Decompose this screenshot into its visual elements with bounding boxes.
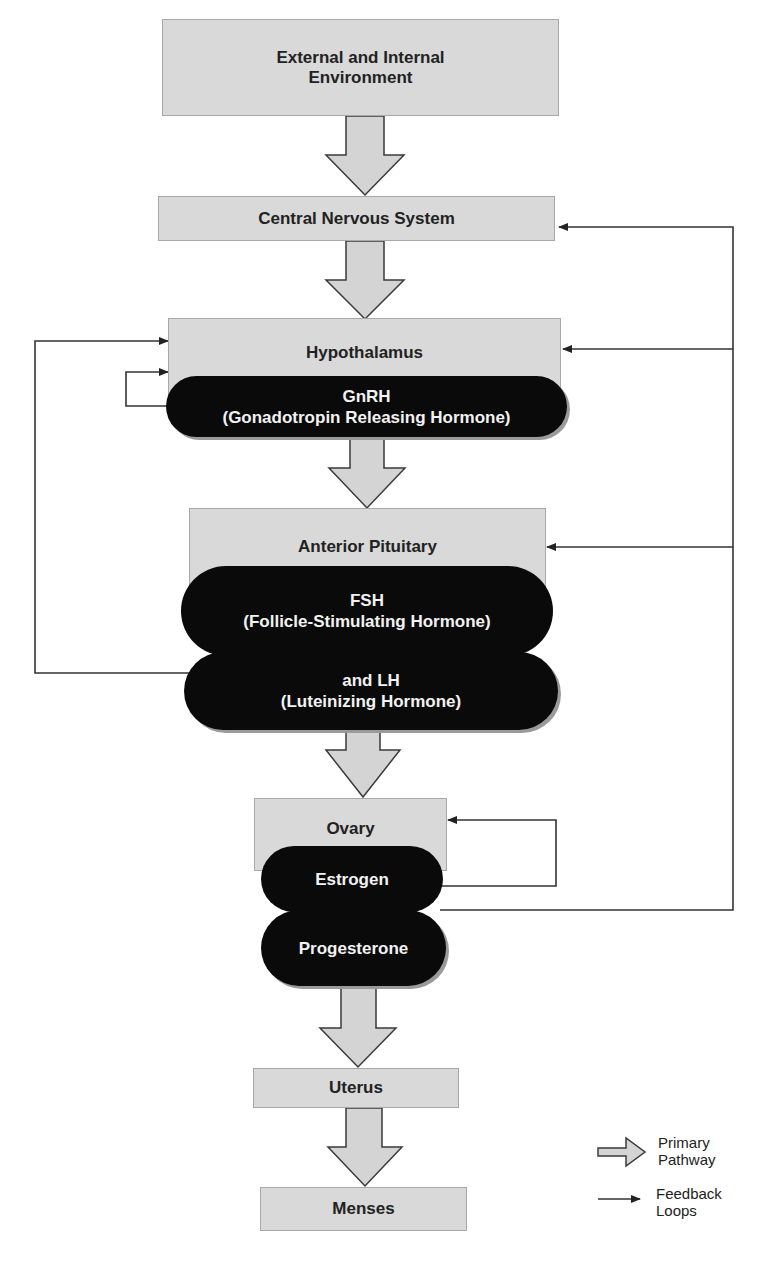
primary-arrow-progesterone-uterus <box>320 985 396 1067</box>
node-uterus-label: Uterus <box>329 1078 383 1098</box>
hormone-lh-label: and LH (Luteinizing Hormone) <box>281 670 461 712</box>
node-ovary-label: Ovary <box>326 819 374 839</box>
feedback-lh-to-hypothalamus <box>35 341 190 673</box>
hormone-progesterone: Progesterone <box>261 910 446 986</box>
primary-arrow-cns-hypothalamus <box>326 241 404 319</box>
feedback-estrogen-to-ovary <box>440 820 556 886</box>
legend-primary-arrow-icon <box>598 1138 645 1166</box>
primary-arrow-gnrh-pituitary <box>329 438 405 508</box>
hormone-progesterone-label: Progesterone <box>299 938 409 959</box>
legend-feedback-loops-label: Feedback Loops <box>656 1185 722 1219</box>
node-cns: Central Nervous System <box>158 196 555 241</box>
primary-arrow-lh-ovary <box>326 720 400 797</box>
node-cns-label: Central Nervous System <box>258 209 455 229</box>
hormone-lh: and LH (Luteinizing Hormone) <box>184 652 558 730</box>
hormone-estrogen-label: Estrogen <box>315 869 389 890</box>
hormone-flow-diagram: External and Internal Environment Centra… <box>0 0 762 1262</box>
node-hypothalamus-label: Hypothalamus <box>306 343 423 363</box>
node-anterior-pituitary-label: Anterior Pituitary <box>298 537 437 557</box>
primary-arrow-uterus-menses <box>328 1108 402 1186</box>
node-environment: External and Internal Environment <box>162 19 559 116</box>
node-uterus: Uterus <box>253 1068 459 1108</box>
hormone-fsh-label: FSH (Follicle-Stimulating Hormone) <box>243 590 490 632</box>
node-environment-label: External and Internal Environment <box>276 48 444 88</box>
node-menses: Menses <box>260 1187 467 1231</box>
primary-arrow-env-cns <box>326 116 404 195</box>
hormone-gnrh: GnRH (Gonadotropin Releasing Hormone) <box>166 376 567 437</box>
feedback-gnrh-to-hypothalamus <box>126 372 168 406</box>
hormone-fsh: FSH (Follicle-Stimulating Hormone) <box>181 566 553 656</box>
node-menses-label: Menses <box>332 1199 394 1219</box>
hormone-gnrh-label: GnRH (Gonadotropin Releasing Hormone) <box>222 386 510 428</box>
hormone-estrogen: Estrogen <box>261 846 443 912</box>
legend-primary-pathway-label: Primary Pathway <box>658 1134 716 1168</box>
